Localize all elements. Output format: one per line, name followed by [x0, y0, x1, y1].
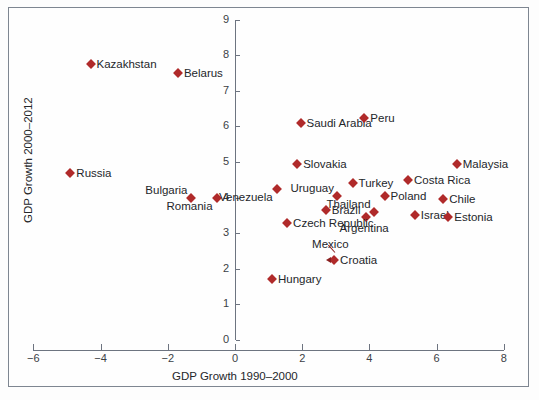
x-tick-label: 8 — [484, 353, 524, 364]
scatter-plot-area: 0123456789−6−4−202468KazakhstanBelarusRu… — [0, 0, 539, 400]
x-axis-line — [33, 350, 503, 351]
data-point-marker[interactable] — [369, 207, 379, 217]
x-tick-label: 6 — [417, 353, 457, 364]
data-point-label: Romania — [167, 200, 213, 212]
y-tick — [236, 55, 240, 56]
y-tick-label: 9 — [211, 14, 229, 25]
data-point-label: Russia — [76, 167, 111, 179]
data-point-label: Chile — [449, 193, 475, 205]
x-tick — [437, 344, 438, 350]
x-tick — [302, 344, 303, 350]
y-tick-label: 8 — [211, 49, 229, 60]
data-point-label: Estonia — [454, 211, 492, 223]
data-point-label: Malaysia — [463, 158, 508, 170]
data-point-marker[interactable] — [348, 178, 358, 188]
data-point-label: Uruguay — [290, 182, 333, 194]
y-tick — [236, 126, 240, 127]
data-point-label: Poland — [391, 190, 427, 202]
data-point-label: Peru — [370, 112, 394, 124]
data-point-marker[interactable] — [296, 118, 306, 128]
chart-figure: 0123456789−6−4−202468KazakhstanBelarusRu… — [0, 0, 539, 400]
y-tick — [236, 162, 240, 163]
data-point-marker[interactable] — [65, 168, 75, 178]
x-tick — [168, 344, 169, 350]
y-tick — [236, 20, 240, 21]
data-point-marker[interactable] — [292, 159, 302, 169]
data-point-marker[interactable] — [272, 184, 282, 194]
data-point-marker[interactable] — [86, 59, 96, 69]
x-tick-label: −2 — [148, 353, 188, 364]
y-tick — [236, 233, 240, 234]
x-tick — [369, 344, 370, 350]
data-point-label: Slovakia — [303, 158, 346, 170]
data-point-label: Hungary — [278, 273, 321, 285]
data-point-label: Bulgaria — [145, 184, 187, 196]
data-point-marker[interactable] — [267, 275, 277, 285]
y-tick-label: 0 — [211, 334, 229, 345]
data-point-marker[interactable] — [410, 210, 420, 220]
x-tick-label: −6 — [13, 353, 53, 364]
y-tick-label: 1 — [211, 298, 229, 309]
data-point-marker[interactable] — [173, 68, 183, 78]
y-tick-label: 6 — [211, 120, 229, 131]
data-point-marker[interactable] — [452, 159, 462, 169]
y-tick-label: 2 — [211, 263, 229, 274]
data-point-marker[interactable] — [282, 218, 292, 228]
x-tick-label: 2 — [282, 353, 322, 364]
x-tick — [101, 344, 102, 350]
mexico-leader-arrow — [326, 257, 331, 263]
data-point-label: Costa Rica — [414, 174, 470, 186]
x-tick — [235, 344, 236, 350]
data-point-label: Venezuela — [219, 191, 273, 203]
y-tick — [236, 269, 240, 270]
y-tick — [236, 91, 240, 92]
data-point-label: Brazil — [332, 204, 361, 216]
y-tick — [236, 340, 240, 341]
data-point-label: Turkey — [359, 177, 394, 189]
data-point-label: Czech Republic — [293, 217, 374, 229]
data-point-marker[interactable] — [403, 175, 413, 185]
data-point-label: Belarus — [184, 67, 223, 79]
y-axis-line — [235, 20, 236, 340]
x-tick — [504, 344, 505, 350]
x-tick-label: −4 — [81, 353, 121, 364]
y-tick-label: 3 — [211, 227, 229, 238]
x-tick-label: 0 — [215, 353, 255, 364]
y-tick-label: 7 — [211, 85, 229, 96]
x-axis-title: GDP Growth 1990–2000 — [172, 370, 298, 382]
y-tick — [236, 304, 240, 305]
x-tick-label: 4 — [349, 353, 389, 364]
data-point-label: Croatia — [340, 254, 377, 266]
y-tick-label: 5 — [211, 156, 229, 167]
data-point-marker[interactable] — [438, 194, 448, 204]
x-tick — [33, 344, 34, 350]
data-point-marker[interactable] — [380, 191, 390, 201]
y-axis-title: GDP Growth 2000–2012 — [22, 97, 34, 223]
data-point-label: Kazakhstan — [97, 58, 157, 70]
